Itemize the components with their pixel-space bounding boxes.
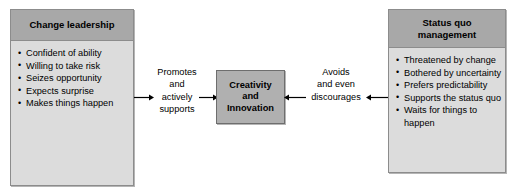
list-item: Makes things happen bbox=[18, 97, 130, 110]
status-quo-header-line-1: Status quo bbox=[422, 17, 471, 28]
creativity-innovation-box: Creativity and Innovation bbox=[216, 70, 285, 124]
list-item: Seizes opportunity bbox=[18, 72, 130, 85]
status-quo-management-box: Status quo management Threatened by chan… bbox=[388, 9, 506, 173]
list-item: Waits for things to happen bbox=[396, 104, 502, 129]
diagram-canvas: Change leadership Confident of ability W… bbox=[0, 0, 516, 196]
list-item: Prefers predictability bbox=[396, 79, 502, 92]
change-leadership-bullet-list: Confident of ability Willing to take ris… bbox=[11, 41, 133, 110]
change-leadership-box: Change leadership Confident of ability W… bbox=[10, 9, 134, 186]
list-item: Threatened by change bbox=[396, 54, 502, 67]
list-item: Willing to take risk bbox=[18, 60, 130, 73]
connector-label-promotes: Promotes and actively supports bbox=[148, 66, 206, 116]
list-item: Supports the status quo bbox=[396, 92, 502, 105]
list-item: Confident of ability bbox=[18, 47, 130, 60]
status-quo-bullet-list: Threatened by change Bothered by uncerta… bbox=[389, 48, 505, 130]
connector-label-avoids: Avoids and even discourages bbox=[300, 66, 372, 103]
center-line-1: Creativity bbox=[229, 80, 271, 90]
center-line-3: Innovation bbox=[227, 103, 274, 113]
change-leadership-header: Change leadership bbox=[11, 10, 133, 41]
center-line-2: and bbox=[242, 91, 259, 101]
creativity-innovation-label: Creativity and Innovation bbox=[227, 80, 274, 115]
list-item: Bothered by uncertainty bbox=[396, 67, 502, 80]
status-quo-management-header: Status quo management bbox=[389, 10, 505, 48]
arrow-left-from-status-quo bbox=[366, 93, 389, 102]
status-quo-header-line-2: management bbox=[418, 29, 477, 40]
list-item: Expects surprise bbox=[18, 85, 130, 98]
